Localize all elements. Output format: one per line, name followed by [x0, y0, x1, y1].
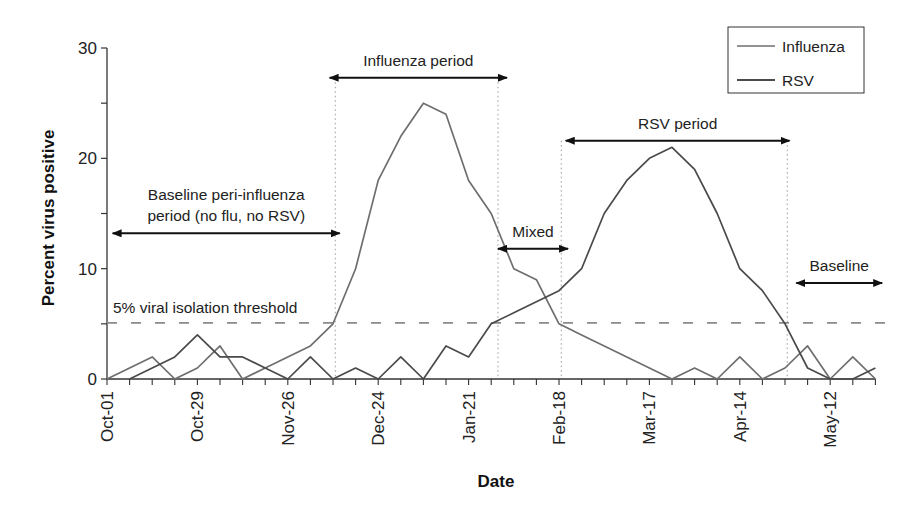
- annotation-baseline: Baseline: [796, 257, 882, 283]
- annotation-baseline-peri: Baseline peri-influenzaperiod (no flu, n…: [113, 186, 340, 233]
- x-axis: Oct-01Oct-29Nov-26Dec-24Jan-21Feb-18Mar-…: [98, 379, 875, 448]
- annotation-label: Baseline: [810, 257, 869, 274]
- annotation-mixed: Mixed: [498, 223, 568, 249]
- x-tick-label: Apr-14: [731, 391, 750, 442]
- x-tick-label: Dec-24: [369, 391, 388, 446]
- annotation-label: Baseline peri-influenza: [148, 186, 305, 203]
- y-tick-label: 10: [78, 260, 97, 279]
- period-dividers: [335, 78, 787, 379]
- annotation-rsv-period: RSV period: [566, 115, 790, 141]
- annotation-label: Mixed: [512, 223, 553, 240]
- series-influenza-line: [107, 103, 875, 379]
- annotation-influenza-period: Influenza period: [330, 52, 507, 78]
- x-tick-label: Oct-01: [98, 391, 117, 442]
- x-tick-label: Feb-18: [550, 391, 569, 445]
- chart: 0102030 Oct-01Oct-29Nov-26Dec-24Jan-21Fe…: [0, 0, 921, 513]
- x-axis-title: Date: [478, 472, 515, 491]
- y-tick-label: 0: [88, 370, 97, 389]
- y-tick-label: 30: [78, 39, 97, 58]
- annotation-label: period (no flu, no RSV): [147, 207, 305, 224]
- legend-label-influenza: Influenza: [782, 38, 845, 55]
- annotation-label: RSV period: [638, 115, 717, 132]
- series-rsv-line: [130, 147, 876, 379]
- annotation-label: Influenza period: [363, 52, 473, 69]
- x-tick-label: Oct-29: [188, 391, 207, 442]
- x-tick-label: May-12: [821, 391, 840, 448]
- x-tick-label: Jan-21: [460, 391, 479, 443]
- threshold-label: 5% viral isolation threshold: [113, 299, 297, 316]
- x-tick-label: Mar-17: [640, 391, 659, 445]
- legend-label-rsv: RSV: [782, 72, 815, 89]
- x-tick-label: Nov-26: [279, 391, 298, 446]
- series-lines: [107, 103, 875, 379]
- legend: Influenza RSV: [728, 27, 864, 93]
- y-axis: 0102030: [78, 39, 107, 389]
- y-tick-label: 20: [78, 149, 97, 168]
- y-axis-title: Percent virus positive: [39, 130, 58, 307]
